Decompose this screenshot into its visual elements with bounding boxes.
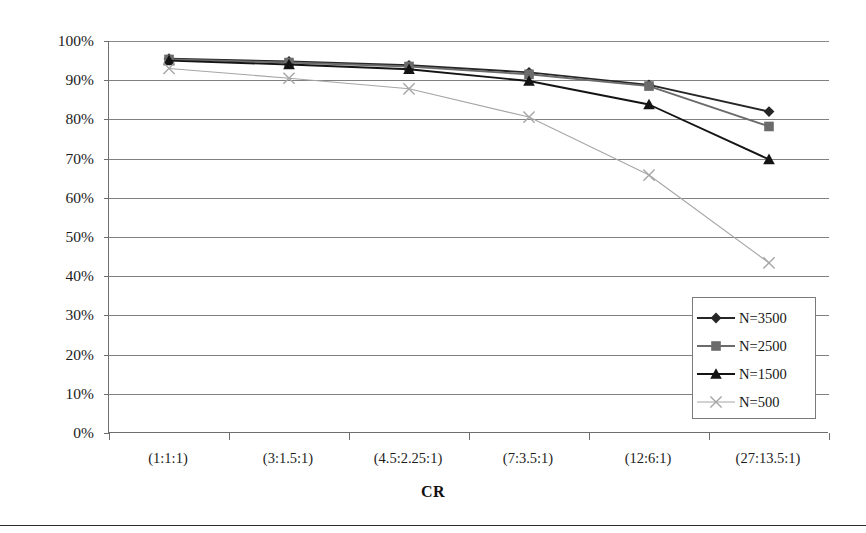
- y-axis-tick-label: 70%: [0, 151, 94, 167]
- y-axis-tick-label: 90%: [0, 72, 94, 88]
- y-axis-tick-label: 50%: [0, 229, 94, 245]
- y-axis-tick-label: 100%: [0, 33, 94, 49]
- series-line: [169, 59, 769, 112]
- y-axis-tick-label: 30%: [0, 307, 94, 323]
- data-point-square: [764, 122, 774, 132]
- data-point-diamond: [764, 106, 775, 117]
- legend-item-n2500[interactable]: N=2500: [693, 332, 815, 360]
- data-point-x: [763, 257, 774, 268]
- x-axis-tick: [589, 433, 590, 440]
- data-point-x: [523, 111, 534, 122]
- data-point-triangle: [763, 154, 775, 165]
- y-axis-tick-label: 10%: [0, 386, 94, 402]
- data-point-diamond: [711, 313, 722, 324]
- legend-label: N=3500: [739, 310, 787, 326]
- x-axis-tick-label: (27:13.5:1): [708, 450, 828, 466]
- x-axis-tick-label: (12:6:1): [588, 450, 708, 466]
- x-axis-tick-label: (1:1:1): [108, 450, 228, 466]
- x-axis-tick: [469, 433, 470, 440]
- x-axis-tick: [109, 433, 110, 440]
- chart-legend: N=3500N=2500N=1500N=500: [692, 297, 816, 419]
- y-axis-tick-label: 60%: [0, 190, 94, 206]
- legend-marker-diamond-icon: [693, 306, 739, 330]
- y-axis-tick-label: 80%: [0, 111, 94, 127]
- data-point-square: [711, 341, 721, 351]
- legend-item-n1500[interactable]: N=1500: [693, 360, 815, 388]
- data-point-x: [643, 169, 654, 180]
- legend-marker-square-icon: [693, 334, 739, 358]
- x-axis-tick: [349, 433, 350, 440]
- x-axis-tick-label: (3:1.5:1): [228, 450, 348, 466]
- x-axis-title: CR: [0, 483, 866, 501]
- legend-label: N=1500: [739, 366, 787, 382]
- legend-item-n500[interactable]: N=500: [693, 388, 815, 416]
- x-axis-tick: [229, 433, 230, 440]
- legend-item-n3500[interactable]: N=3500: [693, 304, 815, 332]
- y-axis-tick-label: 20%: [0, 347, 94, 363]
- data-point-square: [644, 81, 654, 91]
- y-axis-tick-label: 0%: [0, 425, 94, 441]
- bottom-divider: [0, 525, 866, 526]
- legend-marker-x-icon: [693, 390, 739, 414]
- x-axis-tick: [829, 433, 830, 440]
- series-line: [169, 68, 769, 262]
- x-axis-tick-label: (4.5:2.25:1): [348, 450, 468, 466]
- x-axis-tick: [709, 433, 710, 440]
- y-axis-tick-label: 40%: [0, 268, 94, 284]
- legend-label: N=500: [739, 394, 779, 410]
- series-n500: [163, 63, 774, 269]
- legend-marker-triangle-icon: [693, 362, 739, 386]
- chart-figure: 100%90%80%70%60%50%40%30%20%10%0% (1:1:1…: [0, 0, 866, 533]
- x-axis-tick-label: (7:3.5:1): [468, 450, 588, 466]
- legend-label: N=2500: [739, 338, 787, 354]
- series-line: [169, 59, 769, 126]
